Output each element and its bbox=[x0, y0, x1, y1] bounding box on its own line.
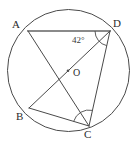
chord-group bbox=[28, 31, 110, 126]
vertex-label-d: D bbox=[113, 18, 121, 29]
vertex-label-c: C bbox=[84, 129, 91, 140]
angle-arc-at-C bbox=[74, 110, 93, 121]
chord-A-C bbox=[28, 31, 89, 126]
center-marker-group bbox=[67, 70, 70, 73]
angle-measure-label-42: 42° bbox=[72, 36, 85, 45]
center-dot-marker bbox=[67, 70, 70, 73]
chord-D-C bbox=[89, 31, 110, 126]
vertex-label-a: A bbox=[12, 19, 20, 30]
geometry-figure: A D B C O 42° bbox=[0, 0, 134, 144]
center-label-o: O bbox=[73, 68, 80, 78]
vertex-label-b: B bbox=[16, 111, 23, 122]
